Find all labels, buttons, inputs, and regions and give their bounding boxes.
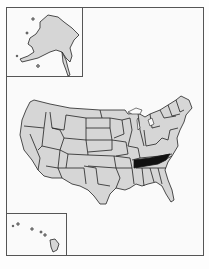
state-alaska (16, 15, 79, 76)
us-map (0, 0, 209, 269)
state-hawaii (12, 223, 59, 252)
